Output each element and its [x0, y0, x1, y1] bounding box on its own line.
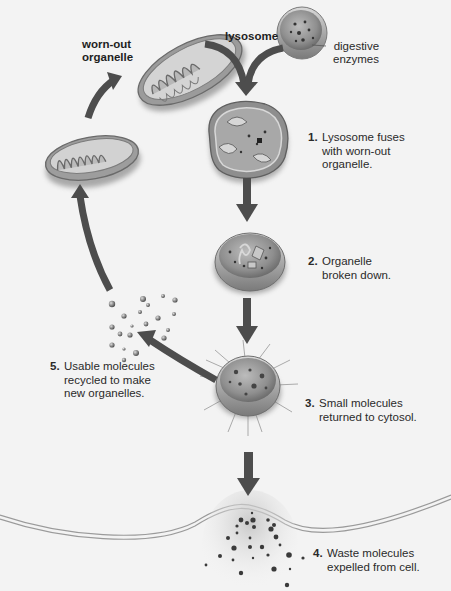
step-text: Usable molecules recycled to make new or…: [50, 360, 155, 401]
step-number: 2.: [308, 255, 318, 269]
new-mitochondrion-icon: [41, 129, 144, 195]
step-5: 5. Usable molecules recycled to make new…: [50, 360, 155, 401]
step-text: Small molecules returned to cytosol.: [305, 397, 417, 424]
step-1: 1. Lysosome fuses with worn-out organell…: [308, 131, 405, 172]
diagram-artwork: [0, 0, 451, 591]
step-text: Organelle broken down.: [308, 255, 391, 282]
worn-out-organelle-label: worn-out organelle: [82, 38, 133, 64]
step-text: Waste molecules expelled from cell.: [313, 547, 420, 574]
step-number: 1.: [308, 131, 318, 145]
digestive-enzymes-label: digestive enzymes: [333, 40, 379, 66]
fused-organelle-icon: [209, 101, 288, 183]
lysosome-label: lysosome: [225, 30, 278, 43]
lysosome-cycle-diagram: worn-out organelle lysosome digestive en…: [0, 0, 451, 591]
cell-membrane-icon: [0, 490, 451, 591]
step-3: 3. Small molecules returned to cytosol.: [305, 397, 417, 424]
lysosome-icon: [277, 7, 327, 59]
step-number: 5.: [50, 360, 60, 374]
step-number: 3.: [305, 397, 315, 411]
digesting-vesicle-icon: [214, 233, 286, 294]
step-2: 2. Organelle broken down.: [308, 255, 391, 282]
step-text: Lysosome fuses with worn-out organelle.: [308, 131, 405, 172]
releasing-vesicle-icon: [200, 340, 298, 436]
step-number: 4.: [313, 547, 323, 561]
step-4: 4. Waste molecules expelled from cell.: [313, 547, 420, 574]
